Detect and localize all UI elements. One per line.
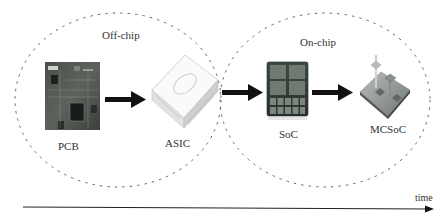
- asic-chip-icon: [152, 55, 218, 128]
- mcsoc-label: MCSoC: [370, 123, 406, 135]
- soc-label: SoC: [279, 128, 298, 140]
- arrow-asic-to-soc: [222, 84, 263, 101]
- arrow-soc-to-mcsoc: [312, 84, 353, 101]
- time-axis: [23, 206, 434, 213]
- pcb-label: PCB: [58, 140, 79, 152]
- diagram-canvas: [0, 0, 445, 224]
- arrow-pcb-to-asic: [105, 91, 146, 108]
- soc-die-icon: [267, 62, 308, 120]
- mcsoc-3d-chip-icon: [360, 55, 410, 119]
- off-chip-label: Off-chip: [102, 29, 140, 41]
- on-chip-label: On-chip: [300, 36, 336, 48]
- asic-label: ASIC: [165, 137, 190, 149]
- time-axis-label: time: [415, 192, 433, 203]
- pcb-board-icon: [45, 62, 100, 130]
